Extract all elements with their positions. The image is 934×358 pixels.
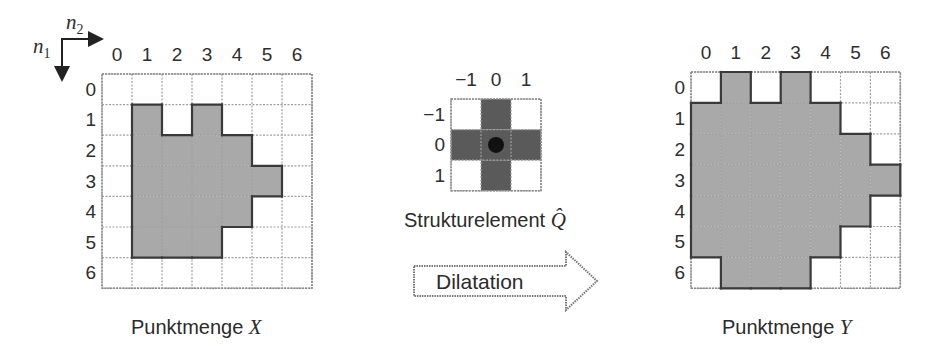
right-grid <box>0 0 934 358</box>
right-grid-caption: Punktmenge Y <box>722 315 852 340</box>
